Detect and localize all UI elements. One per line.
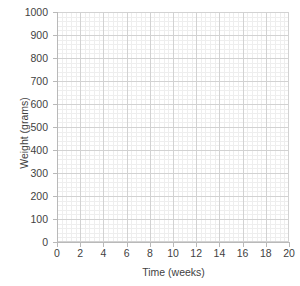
y-tick-mark	[53, 173, 57, 174]
x-tick-label: 20	[274, 248, 300, 259]
x-axis-title: Time (weeks)	[57, 266, 290, 278]
y-tick-mark	[53, 127, 57, 128]
y-tick-label: 100	[4, 214, 48, 225]
y-tick-mark	[53, 58, 57, 59]
major-gridlines	[57, 12, 289, 242]
chart-container: 01002003004005006007008009001000 0246810…	[0, 0, 300, 286]
y-tick-mark	[53, 35, 57, 36]
y-tick-mark	[53, 12, 57, 13]
y-tick-label: 800	[4, 53, 48, 64]
y-axis-line	[57, 12, 58, 243]
grid-right-edge	[288, 12, 289, 242]
y-tick-mark	[53, 219, 57, 220]
y-tick-label: 1000	[4, 7, 48, 18]
plot-area	[57, 12, 289, 242]
y-axis-title: Weight (grams)	[18, 63, 30, 203]
y-tick-mark	[53, 196, 57, 197]
y-tick-label: 900	[4, 30, 48, 41]
y-tick-mark	[53, 150, 57, 151]
y-tick-label: 0	[4, 237, 48, 248]
y-tick-mark	[53, 104, 57, 105]
y-tick-mark	[53, 81, 57, 82]
